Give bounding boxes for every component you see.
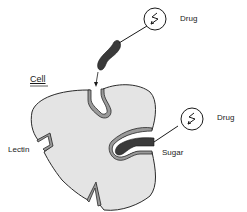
drug-circle-top — [144, 8, 166, 30]
sugar-label: Sugar — [162, 148, 183, 157]
drug-linker-top — [119, 26, 147, 43]
lectin-label: Lectin — [8, 145, 29, 154]
drug-linker-right — [154, 126, 178, 142]
drug-label-top: Drug — [180, 14, 197, 23]
drug-label-right: Drug — [217, 113, 234, 122]
drug-circle-right — [181, 108, 203, 130]
arrow-head — [94, 82, 98, 87]
sugar-free — [98, 40, 121, 70]
cell-label: Cell — [30, 74, 46, 84]
diagram-canvas — [0, 0, 247, 212]
